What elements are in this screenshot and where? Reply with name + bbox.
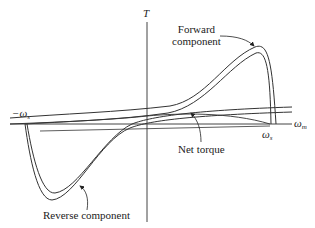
reverse-component-label: Reverse component bbox=[43, 209, 130, 221]
reverse-leader-arrow bbox=[80, 186, 88, 210]
net-torque-label: Net torque bbox=[178, 143, 225, 155]
positive-sync-speed-sub: s bbox=[270, 134, 273, 142]
forward-component-label-line2: component bbox=[172, 35, 221, 47]
net-torque-baseline bbox=[40, 126, 270, 131]
forward-component-label-line1: Forward bbox=[172, 23, 221, 35]
torque-speed-diagram bbox=[0, 0, 315, 228]
positive-sync-speed-main: ω bbox=[262, 128, 270, 140]
negative-sync-speed-main: −ω bbox=[12, 107, 27, 119]
speed-axis-label-main: ω bbox=[294, 117, 302, 129]
positive-sync-speed-label: ωs bbox=[262, 128, 273, 143]
forward-leader-arrow bbox=[220, 36, 254, 46]
speed-axis-label: ωm bbox=[294, 117, 307, 132]
negative-sync-speed-label: −ωs bbox=[12, 107, 30, 122]
forward-component-curve-outer bbox=[10, 46, 276, 124]
reverse-component-curve-outer bbox=[25, 112, 292, 200]
negative-sync-speed-sub: s bbox=[27, 113, 30, 121]
speed-axis-label-sub: m bbox=[302, 123, 307, 131]
forward-component-label: Forward component bbox=[172, 23, 221, 47]
torque-axis-label: T bbox=[143, 7, 149, 19]
